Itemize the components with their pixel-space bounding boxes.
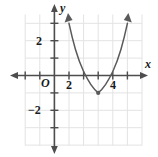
graph-figure: x y O 2 4 2 −2	[0, 0, 158, 157]
curve-arrow-right	[124, 13, 132, 22]
y-axis	[50, 4, 58, 154]
y-axis-arrow-up	[51, 4, 58, 12]
x-axis-arrow-right	[140, 72, 148, 79]
x-tick-label-4: 4	[110, 79, 116, 91]
vertex-point	[96, 91, 100, 95]
y-axis-label: y	[60, 2, 65, 14]
y-tick-label-2: 2	[36, 35, 42, 47]
x-axis-arrow-left	[10, 72, 18, 79]
x-tick-label-2: 2	[66, 79, 72, 91]
y-axis-arrow-down	[51, 146, 58, 154]
curve-arrow-left	[65, 13, 73, 22]
origin-label: O	[41, 77, 50, 89]
y-tick-label-neg2: −2	[28, 104, 41, 116]
x-axis	[10, 72, 148, 80]
x-axis-label: x	[145, 58, 151, 70]
coordinate-plane-svg	[0, 0, 158, 157]
